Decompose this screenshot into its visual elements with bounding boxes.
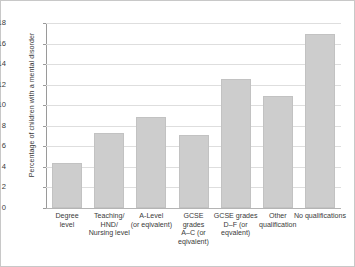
y-tick-label-16: 16 <box>0 40 6 48</box>
bar <box>179 135 209 208</box>
bar-chart-figure: Percentage of children with a mental dis… <box>0 0 355 267</box>
y-tick-label-4: 4 <box>0 163 6 171</box>
x-axis-label-line: Nursing level <box>80 229 138 238</box>
y-tick-label-2: 2 <box>0 183 6 191</box>
y-tick-label-8: 8 <box>0 122 6 130</box>
x-axis-label-group: DegreelevelTeaching/HND/Nursing levelA-L… <box>46 212 341 266</box>
gridline-0 <box>46 208 341 209</box>
gridline-14 <box>46 64 341 65</box>
y-tick-label-12: 12 <box>0 81 6 89</box>
bar <box>94 133 124 208</box>
y-axis-title: Percentage of children with a mental dis… <box>28 5 36 205</box>
y-tick-label-18: 18 <box>0 19 6 27</box>
y-tick-label-14: 14 <box>0 60 6 68</box>
x-axis-label-line: qualification <box>249 221 307 230</box>
gridline-12 <box>46 85 341 86</box>
plot-area <box>46 23 341 208</box>
bar <box>52 163 82 208</box>
x-axis-label: No qualifications <box>291 212 349 221</box>
bar <box>221 79 251 209</box>
bar <box>136 117 166 208</box>
bar <box>263 96 293 208</box>
gridline-10 <box>46 105 341 106</box>
gridline-16 <box>46 44 341 45</box>
y-tick-label-10: 10 <box>0 101 6 109</box>
x-axis-label-line: eqvalent) <box>207 229 265 238</box>
y-tick-label-6: 6 <box>0 142 6 150</box>
bar <box>305 34 335 208</box>
gridline-8 <box>46 126 341 127</box>
y-tick-label-0: 0 <box>0 204 6 212</box>
x-axis-label-line: No qualifications <box>291 212 349 221</box>
x-axis-label-line: eqivalent) <box>164 238 222 247</box>
gridline-18 <box>46 23 341 24</box>
